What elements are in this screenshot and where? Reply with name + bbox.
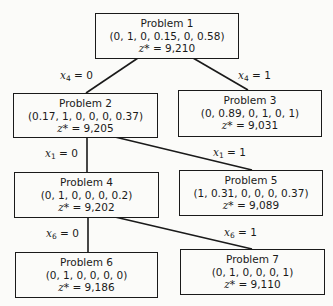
node-solution: (0, 1, 0, 0, 0, 1)	[181, 266, 324, 279]
node-title: Problem 5	[180, 174, 322, 187]
edge-label-p4-p6: x6 = 0	[46, 227, 79, 241]
node-solution: (1, 0.31, 0, 0, 0, 0.37)	[180, 187, 322, 200]
node-objective: z* = 9,110	[181, 278, 324, 291]
edge-label-p2-p4: x1 = 0	[45, 147, 78, 161]
node-problem-5: Problem 5 (1, 0.31, 0, 0, 0, 0.37) z* = …	[179, 170, 323, 216]
node-title: Problem 1	[96, 17, 238, 30]
node-problem-6: Problem 6 (0, 1, 0, 0, 0, 0) z* = 9,186	[15, 252, 158, 298]
node-objective: z* = 9,210	[96, 42, 238, 55]
edge-label-p4-p7: x6 = 1	[224, 226, 257, 240]
node-solution: (0, 1, 0, 0.15, 0, 0.58)	[96, 30, 238, 43]
node-problem-2: Problem 2 (0.17, 1, 0, 0, 0, 0.37) z* = …	[13, 93, 158, 138]
node-objective: z* = 9,202	[15, 201, 158, 214]
node-solution: (0, 1, 0, 0, 0, 0.2)	[15, 189, 158, 202]
node-title: Problem 4	[15, 176, 158, 189]
node-solution: (0, 0.89, 0, 1, 0, 1)	[179, 107, 321, 120]
node-problem-7: Problem 7 (0, 1, 0, 0, 0, 1) z* = 9,110	[180, 249, 325, 295]
node-objective: z* = 9,205	[14, 122, 157, 135]
node-objective: z* = 9,089	[180, 199, 322, 212]
edge-label-p1-p2: x4 = 0	[60, 69, 93, 83]
node-problem-3: Problem 3 (0, 0.89, 0, 1, 0, 1) z* = 9,0…	[178, 90, 322, 137]
node-title: Problem 7	[181, 253, 324, 266]
edge-p1-p2	[86, 58, 138, 93]
node-solution: (0.17, 1, 0, 0, 0, 0.37)	[14, 110, 157, 123]
node-solution: (0, 1, 0, 0, 0, 0)	[16, 269, 157, 282]
node-problem-1: Problem 1 (0, 1, 0, 0.15, 0, 0.58) z* = …	[95, 13, 239, 59]
node-title: Problem 3	[179, 94, 321, 107]
node-title: Problem 6	[16, 256, 157, 269]
edge-label-p1-p3: x4 = 1	[238, 69, 271, 83]
node-objective: z* = 9,031	[179, 119, 321, 132]
node-title: Problem 2	[14, 97, 157, 110]
edge-label-p2-p5: x1 = 1	[213, 146, 246, 160]
node-problem-4: Problem 4 (0, 1, 0, 0, 0, 0.2) z* = 9,20…	[14, 172, 159, 218]
node-objective: z* = 9,186	[16, 281, 157, 294]
